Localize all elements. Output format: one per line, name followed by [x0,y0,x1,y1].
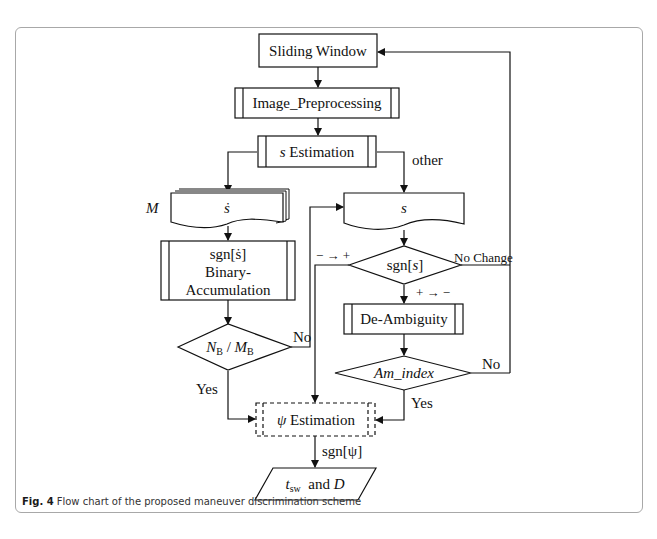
node-multi-document: ṡ [171,189,289,228]
de-ambiguity-label: De-Ambiguity [360,311,448,327]
node-s-estimation: s Estimation [258,136,376,167]
binary-line2: Binary- [205,264,251,280]
node-binary-accumulation: sgn[ṡ] Binary- Accumulation [161,241,295,300]
sgn-s-label: sgn[s] [387,257,424,273]
label-sgn-psi: sgn[ψ] [322,443,362,459]
s-doc-var: s [401,200,407,216]
flowchart: Sliding Window Image_Preprocessing s Est… [0,0,657,539]
node-am-index-decision: Am_index [335,356,471,390]
node-sliding-window: Sliding Window [259,34,377,67]
label-no-right: No [482,356,500,372]
figure-caption: Fig. 4Flow chart of the proposed maneuve… [22,496,361,507]
psi-estimation-label: ψ Estimation [277,412,356,428]
binary-line3: Accumulation [186,282,271,298]
multi-doc-count-label: M [145,200,160,216]
image-preprocessing-label: Image_Preprocessing [252,95,382,111]
node-psi-estimation: ψ Estimation [256,403,375,436]
node-image-preprocessing: Image_Preprocessing [235,88,399,118]
label-minus-to-plus: − → + [316,248,350,263]
s-estimation-text: Estimation [286,144,355,160]
edge-nbmb-yes-to-psi [228,371,255,419]
node-nb-mb-decision: NB / MB [178,324,291,370]
node-s-document: s [344,193,464,229]
edge-sest-to-sdoc [377,152,404,192]
multi-doc-var: ṡ [224,200,230,216]
edge-sest-to-multidoc [228,152,257,192]
edge-nbmb-no-to-sdoc [291,207,343,347]
label-plus-to-minus: + → − [416,285,450,300]
label-yes-left: Yes [196,381,218,397]
node-de-ambiguity: De-Ambiguity [344,304,463,334]
label-no-change: No Change [454,250,513,265]
s-estimation-label: s Estimation [280,144,355,160]
binary-line1: sgn[ṡ] [210,246,247,262]
edge-amindex-yes-to-psi [376,390,404,420]
label-other: other [412,152,443,168]
label-no-left: No [293,329,311,345]
label-yes-right: Yes [411,395,433,411]
nb-mb-label: NB / MB [205,339,254,357]
am-index-label: Am_index [373,365,434,381]
caption-text: Flow chart of the proposed maneuver disc… [57,496,362,507]
sliding-window-label: Sliding Window [269,43,367,59]
node-sgn-s-decision: sgn[s] [349,246,461,284]
caption-label: Fig. 4 [22,496,54,507]
